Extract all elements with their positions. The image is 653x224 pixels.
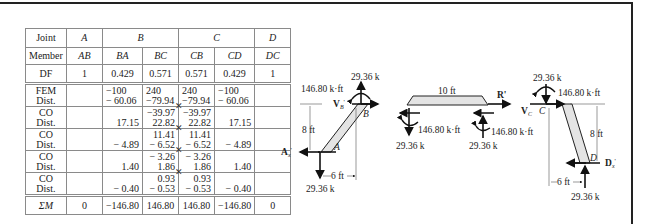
column-cd-moment: 146.80 k·ft (558, 88, 601, 98)
r-prime-label: R' (497, 90, 507, 100)
shear-vb-label: VB' (333, 98, 345, 110)
column-cd-height: 8 ft (590, 129, 603, 139)
joint-c-label: C (539, 106, 546, 116)
column-ab-diagram: 29.36 k 146.80 k·ft VB' B 8 ft A Ax' 29.… (281, 72, 380, 194)
shear-vc-label: VC (521, 106, 533, 117)
column-ab-bottom-force: 29.36 k (306, 184, 335, 194)
column-cd-member (562, 104, 590, 163)
beam-right-force: 29.36 k (469, 141, 498, 151)
carryover-cross-icon: ✕ (175, 124, 183, 133)
column-cd-diagram: 29.36 k 146.80 k·ft VC C 8 ft D Dx' 29.3… (521, 73, 616, 202)
beam-bc-member (407, 96, 488, 105)
beam-left-force: 29.36 k (396, 141, 425, 151)
column-cd-offset: 6 ft (557, 177, 570, 187)
column-ab-moment: 146.80 k·ft (301, 84, 344, 94)
joint-b-label: B (363, 109, 369, 119)
reaction-ax-label: Ax' (281, 146, 292, 158)
joint-a-label: A (333, 142, 340, 152)
column-ab-height: 8 ft (302, 125, 315, 135)
moment-arc-icon (402, 120, 418, 126)
beam-left-moment: 146.80 k·ft (418, 125, 461, 135)
column-ab-member (321, 104, 368, 152)
joint-d-label: D (589, 153, 597, 163)
carryover-cross-icon: ✕ (175, 168, 183, 177)
beam-bc-diagram: 10 ft R' 146.80 k·ft 29.36 k 146.80 k·ft… (396, 86, 534, 151)
carryover-cross-icon: ✕ (175, 102, 183, 111)
carryover-cross-icon: ✕ (175, 146, 183, 155)
column-ab-top-force: 29.36 k (351, 72, 380, 82)
column-ab-offset: 6 ft (331, 171, 344, 181)
reaction-dx-label: Dx' (605, 157, 616, 169)
column-cd-bottom-force: 29.36 k (571, 192, 600, 202)
free-body-diagrams: 29.36 k 146.80 k·ft VB' B 8 ft A Ax' 29.… (0, 0, 653, 224)
beam-span: 10 ft (438, 86, 456, 96)
beam-right-moment: 146.80 k·ft (491, 127, 534, 137)
column-cd-top-force: 29.36 k (533, 73, 562, 83)
